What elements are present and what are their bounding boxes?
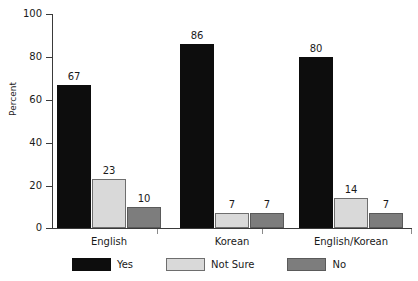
bar-value-korean-yes: 86 (180, 30, 214, 41)
x-axis-group-separator-2 (262, 229, 263, 234)
x-axis-label-english-korean: English/Korean (301, 236, 401, 248)
legend-swatch-not-sure (166, 258, 205, 271)
legend-item-not-sure: Not Sure (166, 258, 254, 271)
bar-korean-not-sure (215, 213, 249, 228)
x-axis-label-korean: Korean (182, 236, 282, 248)
legend-label-no: No (332, 259, 346, 271)
legend-item-yes: Yes (72, 258, 133, 271)
y-axis-label-40: 40 (14, 138, 42, 148)
legend-swatch-yes (72, 258, 111, 271)
y-axis-label-100: 100 (14, 9, 42, 19)
x-axis-line (52, 228, 412, 229)
bar-value-korean-no: 7 (250, 199, 284, 210)
bar-korean-yes (180, 44, 214, 228)
bar-value-english-not-sure: 23 (92, 165, 126, 176)
bar-english-korean-yes (299, 57, 333, 228)
bar-korean-no (250, 213, 284, 228)
bar-value-english-korean-yes: 80 (299, 43, 333, 54)
bar-value-korean-not-sure: 7 (215, 199, 249, 210)
x-axis-label-english: English (59, 236, 159, 248)
y-axis-tick-80 (46, 57, 52, 58)
legend-label-not-sure: Not Sure (211, 259, 254, 271)
y-axis-tick-100 (46, 14, 52, 15)
bar-chart: Percent 100 80 60 40 20 0 67 23 10 Engli… (0, 0, 418, 281)
bar-english-no (127, 207, 161, 228)
bar-value-english-korean-not-sure: 14 (334, 184, 368, 195)
bar-english-yes (57, 85, 91, 228)
y-axis-tick-40 (46, 143, 52, 144)
y-axis-tick-60 (46, 100, 52, 101)
bar-english-korean-not-sure (334, 198, 368, 228)
y-axis-line (52, 14, 53, 229)
bar-value-english-no: 10 (127, 193, 161, 204)
legend-item-no: No (287, 258, 346, 271)
y-axis-label-20: 20 (14, 181, 42, 191)
bar-english-not-sure (92, 179, 126, 228)
y-axis-label-80: 80 (14, 52, 42, 62)
bar-value-english-korean-no: 7 (369, 199, 403, 210)
y-axis-label-60: 60 (14, 95, 42, 105)
legend-swatch-no (287, 258, 326, 271)
chart-legend: Yes Not Sure No (0, 258, 418, 271)
legend-label-yes: Yes (117, 259, 133, 271)
bar-value-english-yes: 67 (57, 71, 91, 82)
x-axis-group-separator-3 (411, 229, 412, 234)
x-axis-group-separator-1 (157, 229, 158, 234)
bar-english-korean-no (369, 213, 403, 228)
y-axis-tick-0 (46, 228, 52, 229)
y-axis-label-0: 0 (14, 223, 42, 233)
y-axis-tick-20 (46, 186, 52, 187)
